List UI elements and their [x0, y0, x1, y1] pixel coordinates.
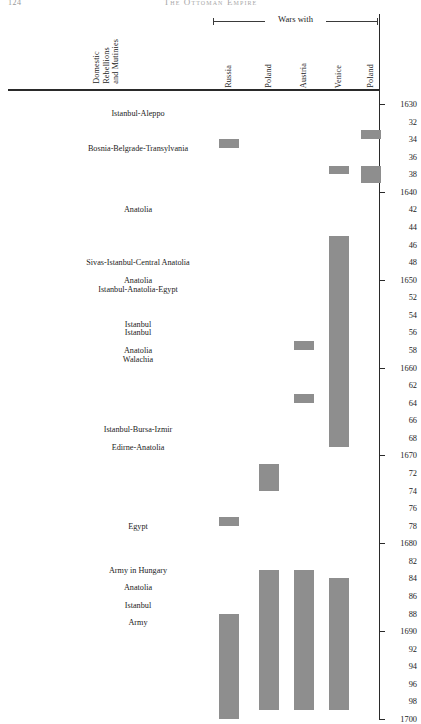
war-bar-austria — [294, 394, 314, 403]
year-label: 98 — [387, 697, 417, 706]
wars-with-label: Wars with — [213, 14, 378, 24]
year-label: 92 — [387, 644, 417, 653]
war-bar-austria — [294, 570, 314, 711]
year-label: 38 — [387, 170, 417, 179]
year-tick — [379, 543, 385, 544]
year-tick — [379, 455, 385, 456]
year-tick — [379, 104, 385, 105]
war-bar-poland — [361, 166, 381, 184]
event-label: Istanbul — [125, 319, 151, 328]
column-header-domestic: DomesticRebellionsand Mutinies — [92, 39, 121, 84]
event-label: Egypt — [128, 521, 148, 530]
year-label: 1670 — [387, 451, 417, 460]
war-bar-poland — [259, 570, 279, 711]
year-tick — [379, 192, 385, 193]
event-label: Istanbul — [125, 600, 151, 609]
event-label: Army — [128, 618, 147, 627]
war-bar-venice — [329, 578, 349, 710]
war-bar-russia — [219, 614, 239, 719]
event-label: Istanbul-Anatolia-Egypt — [98, 284, 178, 293]
year-label: 96 — [387, 679, 417, 688]
year-label: 1630 — [387, 100, 417, 109]
war-bar-russia — [219, 139, 239, 148]
bracket-tick-right — [377, 18, 378, 25]
timeline-plot: Istanbul-AleppoBosnia-Belgrade-Transylva… — [0, 91, 421, 720]
event-label: Army in Hungary — [109, 565, 167, 574]
year-label: 34 — [387, 135, 417, 144]
year-label: 84 — [387, 574, 417, 583]
year-label: 66 — [387, 416, 417, 425]
year-label: 88 — [387, 609, 417, 618]
year-label: 32 — [387, 117, 417, 126]
event-label: Istanbul-Aleppo — [111, 108, 164, 117]
year-label: 52 — [387, 293, 417, 302]
war-bar-venice — [329, 166, 349, 175]
event-label: Anatolia — [124, 346, 152, 355]
year-label: 56 — [387, 328, 417, 337]
event-label: Sivas-Istanbul-Central Anatolia — [86, 258, 189, 267]
year-label: 82 — [387, 556, 417, 565]
event-label: Anatolia — [124, 275, 152, 284]
war-bar-poland — [361, 130, 381, 139]
year-label: 1650 — [387, 275, 417, 284]
column-header-austria-2: Austria — [299, 63, 309, 88]
year-tick — [379, 368, 385, 369]
year-label: 78 — [387, 521, 417, 530]
year-label: 86 — [387, 592, 417, 601]
running-head: 124 The Ottoman Empire — [0, 0, 421, 12]
column-header-poland-4: Poland — [366, 64, 376, 88]
year-label: 1700 — [387, 715, 417, 724]
event-label: Istanbul — [125, 328, 151, 337]
year-label: 46 — [387, 240, 417, 249]
year-label: 1640 — [387, 187, 417, 196]
year-label: 1660 — [387, 363, 417, 372]
year-label: 58 — [387, 346, 417, 355]
year-tick — [379, 719, 385, 720]
event-label: Anatolia — [124, 205, 152, 214]
bracket-rule-right — [326, 21, 378, 22]
year-label: 62 — [387, 381, 417, 390]
event-label: Edirne-Anatolia — [112, 442, 165, 451]
year-label: 54 — [387, 310, 417, 319]
year-label: 74 — [387, 486, 417, 495]
year-axis: 1630323436381640424446481650525456581660… — [379, 91, 421, 720]
year-label: 1690 — [387, 627, 417, 636]
year-label: 68 — [387, 433, 417, 442]
bracket-tick-left — [213, 18, 214, 25]
running-head-title: The Ottoman Empire — [0, 0, 421, 7]
war-bar-poland — [259, 464, 279, 490]
event-label: Anatolia — [124, 583, 152, 592]
event-label: Istanbul-Bursa-Izmir — [104, 425, 173, 434]
year-label: 42 — [387, 205, 417, 214]
year-label: 44 — [387, 223, 417, 232]
year-label: 72 — [387, 469, 417, 478]
year-label: 64 — [387, 398, 417, 407]
column-header-poland-1: Poland — [264, 64, 274, 88]
war-bar-venice — [329, 236, 349, 447]
column-header-venice-3: Venice — [334, 65, 344, 88]
war-bar-russia — [219, 517, 239, 526]
column-header-russia-0: Russia — [224, 65, 234, 88]
year-label: 1680 — [387, 539, 417, 548]
year-label: 76 — [387, 504, 417, 513]
year-label: 94 — [387, 662, 417, 671]
event-label: Walachia — [123, 354, 153, 363]
column-header-zone: DomesticRebellionsand Mutinies Wars with… — [0, 12, 421, 90]
year-tick — [379, 631, 385, 632]
event-label: Bosnia-Belgrade-Transylvania — [88, 143, 188, 152]
bracket-rule-left — [213, 21, 265, 22]
year-label: 48 — [387, 258, 417, 267]
year-tick — [379, 280, 385, 281]
wars-with-bracket: Wars with — [213, 15, 378, 28]
year-label: 36 — [387, 152, 417, 161]
war-bar-austria — [294, 341, 314, 350]
